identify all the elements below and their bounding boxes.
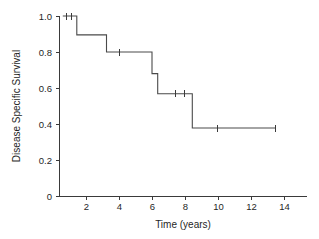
x-tick-label-6: 6	[150, 201, 155, 212]
y-tick-label-0.8: 0.8	[39, 47, 52, 58]
y-axis-title: Disease Specific Survival	[11, 50, 22, 162]
y-tick-label-0.4: 0.4	[39, 119, 52, 130]
y-axis-ticks	[56, 17, 60, 197]
x-axis: 2 4 6 8 10 12 14 Time (years)	[60, 197, 307, 231]
y-tick-label-1.0: 1.0	[39, 11, 52, 22]
y-tick-label-0.2: 0.2	[39, 155, 52, 166]
x-tick-label-2: 2	[84, 201, 89, 212]
x-tick-label-10: 10	[213, 201, 224, 212]
x-tick-label-12: 12	[246, 201, 257, 212]
survival-chart: 1.0 0.8 0.6 0.4 0.2 0 Disease Specific S…	[0, 0, 319, 239]
y-axis-tick-labels: 1.0 0.8 0.6 0.4 0.2 0	[39, 11, 52, 202]
x-axis-title: Time (years)	[155, 219, 211, 230]
x-axis-ticks	[87, 197, 285, 201]
x-tick-label-4: 4	[117, 201, 122, 212]
x-axis-tick-labels: 2 4 6 8 10 12 14	[84, 201, 290, 212]
y-tick-label-0.6: 0.6	[39, 83, 52, 94]
censor-marks-group	[67, 13, 276, 132]
chart-canvas: 1.0 0.8 0.6 0.4 0.2 0 Disease Specific S…	[0, 0, 319, 239]
y-axis: 1.0 0.8 0.6 0.4 0.2 0 Disease Specific S…	[11, 11, 60, 202]
x-tick-label-8: 8	[183, 201, 188, 212]
survival-step-curve	[63, 16, 276, 128]
x-tick-label-14: 14	[279, 201, 290, 212]
survival-curve-group	[63, 16, 276, 128]
y-tick-label-0: 0	[47, 191, 52, 202]
